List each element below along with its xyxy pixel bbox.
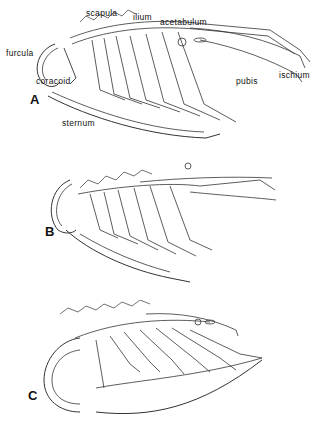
label-sternum: sternum	[62, 118, 95, 128]
label-acetabulum: acetabulum	[160, 17, 207, 27]
panel-letter-a: A	[30, 92, 39, 107]
panel-letter-b: B	[45, 224, 54, 239]
panel-c: C	[0, 300, 321, 433]
panel-b: B	[0, 160, 321, 290]
label-coracoid: coracoid	[36, 76, 71, 86]
panel-letter-c: C	[28, 388, 37, 403]
label-ilium: ilium	[133, 12, 152, 22]
label-furcula: furcula	[6, 48, 34, 58]
skeleton-drawing-c	[0, 300, 321, 433]
panel-a: A scapula ilium acetabulum furcula corac…	[0, 0, 321, 150]
label-pubis: pubis	[236, 76, 258, 86]
label-ischium: ischium	[279, 70, 310, 80]
label-scapula: scapula	[86, 8, 117, 18]
